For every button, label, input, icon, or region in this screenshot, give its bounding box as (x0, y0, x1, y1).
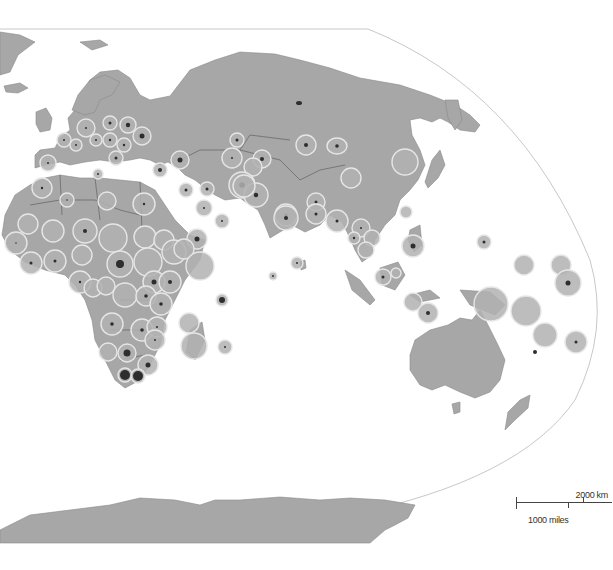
russia-marker (296, 101, 302, 105)
scale-km-label: 2000 km (576, 490, 608, 500)
scale-tick-miles (568, 502, 569, 508)
japan (425, 150, 445, 188)
scale-miles-label: 1000 miles (528, 515, 569, 525)
iceland (4, 83, 28, 93)
scale-line (516, 502, 612, 503)
scale-tick-start (516, 497, 517, 509)
australia (410, 310, 505, 398)
new-zealand (505, 395, 530, 430)
british-isles (36, 108, 52, 132)
sumatra (345, 270, 375, 305)
greenland (0, 32, 35, 75)
world-map (0, 0, 613, 570)
scale-bar: 2000 km 1000 miles (516, 490, 612, 530)
tasmania (452, 402, 460, 414)
scale-tick-km (583, 497, 584, 503)
antarctica (0, 497, 415, 543)
svalbard (80, 40, 108, 50)
